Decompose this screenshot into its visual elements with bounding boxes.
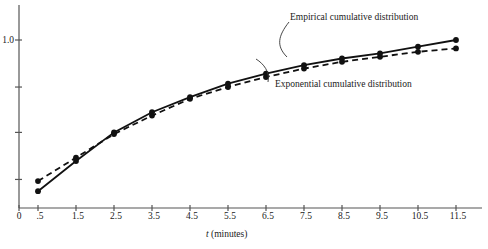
x-tick-label-0: 0 [17,211,22,221]
series-empirical-line [38,40,456,191]
data-point [187,94,193,100]
x-axis-title: t (minutes) [206,229,247,239]
data-point [339,56,345,62]
x-tick-label-6.5: 6.5 [262,211,274,221]
annotation-exponential-label: Exponential cumulative distribution [275,79,412,89]
x-tick-label-8.5: 8.5 [338,211,350,221]
data-point [415,49,421,55]
data-point [35,188,41,194]
data-point [35,178,41,184]
data-point [453,46,459,52]
data-point [149,109,155,115]
axes-group [15,5,482,211]
x-tick-label-11.5: 11.5 [450,211,466,221]
annotation-empirical-label: Empirical cumulative distribution [290,12,418,22]
data-point [377,51,383,57]
x-tick-label-10.5: 10.5 [412,211,429,221]
series-exponential-line [38,48,456,181]
x-tick-label-7.5: 7.5 [300,211,312,221]
data-point [415,44,421,50]
x-tick-label-1.5: 1.5 [72,211,84,221]
series-empirical-markers [35,37,459,194]
series-exponential-markers [35,46,459,185]
data-point [73,158,79,164]
y-tick-label-1.0: 1.0 [0,35,14,45]
x-tick-label-5.5: 5.5 [224,211,236,221]
data-point [225,81,231,87]
data-series-group [35,37,459,194]
x-tick-label-3.5: 3.5 [148,211,160,221]
x-axis-title-units: (minutes) [209,229,248,239]
annotation-leader-empirical [280,22,289,57]
data-point [453,37,459,43]
figure-container: 0 .5 1.5 2.5 3.5 4.5 5.5 6.5 7.5 8.5 9.5… [0,0,488,249]
data-point [111,130,117,136]
x-tick-label-4.5: 4.5 [186,211,198,221]
x-tick-label-9.5: 9.5 [376,211,388,221]
x-tick-label-2.5: 2.5 [110,211,122,221]
x-tick-label-0.5: .5 [36,211,43,221]
data-point [301,62,307,68]
